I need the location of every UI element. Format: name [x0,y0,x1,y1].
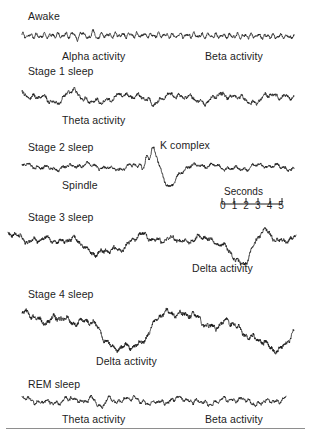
seconds-tick-label: 2 [240,200,252,211]
delta-activity-label-stage3: Delta activity [192,262,253,274]
seconds-tick-label: 4 [264,200,276,211]
alpha-activity-label: Alpha activity [62,50,125,62]
bottom-divider-rule [6,428,305,429]
stage-label-rem: REM sleep [28,378,80,390]
theta-activity-label-rem: Theta activity [62,413,125,425]
eeg-trace-awake [22,28,294,44]
stage-label-stage-1: Stage 1 sleep [28,65,94,77]
sleep-stage-eeg-figure: AwakeAlpha activityBeta activityStage 1 … [0,0,311,438]
stage-label-awake: Awake [28,10,60,22]
theta-activity-label: Theta activity [62,114,125,126]
delta-activity-label-stage4: Delta activity [96,355,157,367]
stage-label-stage-3: Stage 3 sleep [28,211,94,223]
k-complex-label: K complex [160,139,210,151]
beta-activity-label-rem: Beta activity [205,413,263,425]
eeg-trace-stage-3 [8,223,296,265]
eeg-trace-stage-1 [22,84,294,110]
seconds-scale-ticklabels: 012345 [217,200,287,211]
seconds-tick-label: 1 [229,200,241,211]
eeg-trace-rem [22,392,286,410]
seconds-tick-label: 0 [217,200,229,211]
eeg-trace-stage-4 [22,298,294,354]
seconds-scale-caption: Seconds [224,186,263,197]
beta-activity-label: Beta activity [205,50,263,62]
spindle-label: Spindle [62,179,98,191]
seconds-tick-label: 3 [252,200,264,211]
seconds-tick-label: 5 [275,200,287,211]
